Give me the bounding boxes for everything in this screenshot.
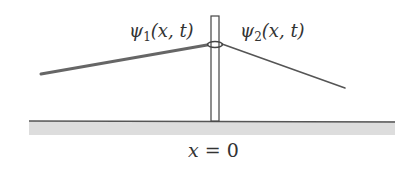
boundary-equals: = bbox=[205, 139, 221, 161]
boundary-value: 0 bbox=[227, 139, 239, 161]
label-psi1: ψ1(x, t) bbox=[129, 22, 194, 40]
right-rope bbox=[222, 44, 345, 88]
psi2-subscript: 2 bbox=[254, 30, 262, 44]
psi2-symbol: ψ bbox=[240, 20, 254, 41]
label-psi2: ψ2(x, t) bbox=[240, 22, 305, 40]
ground-fill bbox=[29, 121, 395, 135]
psi1-symbol: ψ bbox=[129, 20, 143, 41]
boundary-variable: x bbox=[188, 139, 199, 161]
left-rope bbox=[41, 45, 207, 74]
label-boundary: x = 0 bbox=[188, 141, 239, 160]
psi2-args: (x, t) bbox=[262, 20, 305, 41]
psi1-subscript: 1 bbox=[143, 30, 151, 44]
pole bbox=[211, 16, 219, 121]
psi1-args: (x, t) bbox=[151, 20, 194, 41]
